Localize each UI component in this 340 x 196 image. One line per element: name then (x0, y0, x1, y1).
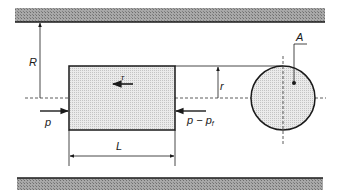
area-point (292, 81, 296, 85)
top-pipe-wall (15, 8, 325, 22)
inlet-pressure-label: p (44, 116, 51, 128)
pipe-radius-label: R (29, 56, 37, 68)
outlet-pressure-label: p − pf (186, 114, 215, 127)
bottom-pipe-wall (17, 178, 323, 190)
length-label: L (116, 140, 122, 152)
pipe-flow-diagram: R τ p p − pf r L A (0, 0, 340, 196)
area-label: A (295, 31, 303, 43)
plug-radius-label: r (220, 80, 225, 92)
